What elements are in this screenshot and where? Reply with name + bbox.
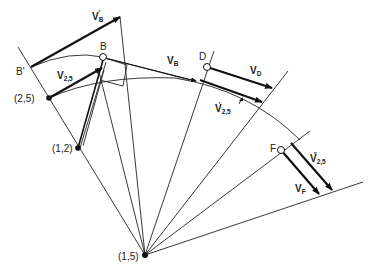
ray-to-b-prime	[18, 47, 145, 255]
point-f-circle	[278, 147, 285, 154]
label-f: F	[270, 143, 276, 154]
radial-lines	[18, 17, 363, 255]
ray-inner	[98, 68, 145, 255]
pole-15-dot	[142, 252, 148, 258]
link-line-a	[78, 60, 103, 148]
arc-through-25	[49, 78, 300, 140]
label-b-prime: B'	[16, 66, 25, 77]
label-vb-prime: VB'	[92, 9, 104, 23]
velocity-diagram: VB' B B' VB D VD V2,5 V2,5' F V2,5" VF (…	[0, 0, 375, 274]
label-d: D	[199, 51, 206, 62]
ray-to-vd-tip	[145, 71, 288, 255]
link-line-c	[83, 70, 104, 146]
vector-v25-prime	[200, 80, 262, 102]
label-vf: VF	[295, 183, 306, 195]
label-pole-12: (1,2)	[52, 143, 73, 154]
point-d-circle	[204, 64, 211, 71]
pole-25-dot	[46, 95, 52, 101]
label-pole-15: (1,5)	[118, 251, 139, 262]
label-vd: VD	[250, 65, 262, 77]
point-b-circle	[100, 54, 107, 61]
pole-12-dot	[75, 145, 81, 151]
label-v25-double-prime: V2,5"	[310, 151, 326, 166]
vectors	[31, 17, 332, 194]
label-b: B	[100, 41, 107, 52]
link-line-b	[80, 62, 106, 148]
label-pole-25: (2,5)	[14, 93, 35, 104]
points	[46, 54, 284, 259]
label-v25: V2,5	[57, 70, 73, 83]
ray-to-f	[145, 131, 310, 255]
label-v25-prime: V2,5'	[215, 101, 231, 116]
ray-to-vf-tip	[145, 182, 363, 255]
arcs	[31, 55, 300, 140]
ray-to-b	[120, 17, 145, 255]
label-vb: VB	[167, 55, 179, 67]
labels: VB' B B' VB D VD V2,5 V2,5' F V2,5" VF (…	[14, 9, 326, 262]
